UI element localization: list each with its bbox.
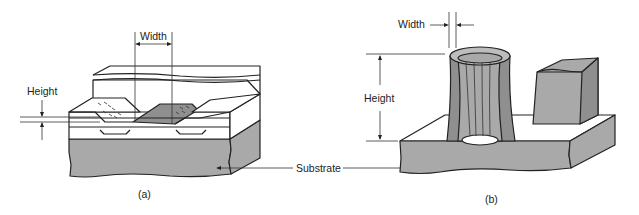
substrate-b-front xyxy=(400,141,571,174)
arrow-down-icon xyxy=(378,135,382,140)
caption-a: (a) xyxy=(138,188,151,200)
trench-left xyxy=(100,130,130,134)
arrow-left-icon xyxy=(135,42,140,46)
caption-b: (b) xyxy=(485,193,498,205)
raised-left-region xyxy=(69,98,140,112)
width-label-b: Width xyxy=(398,18,425,30)
arrow-right-icon xyxy=(444,23,449,27)
panel-b-diagram: Width Height (b) xyxy=(364,12,615,205)
arrow-up-icon xyxy=(40,122,44,127)
sidewall-top-inner xyxy=(458,53,502,63)
arrow-left-icon xyxy=(456,23,461,27)
width-label-a: Width xyxy=(140,30,167,42)
substrate-label: Substrate xyxy=(296,162,341,174)
panel-a-diagram: Width Height (a) xyxy=(20,30,260,200)
arrow-down-icon xyxy=(40,112,44,117)
trench-right xyxy=(176,130,206,134)
figure-canvas: Width Height (a) Substrate xyxy=(0,0,639,215)
sidewall-inner-face xyxy=(458,58,502,141)
arrow-right-icon xyxy=(167,42,172,46)
substrate-a-front xyxy=(69,139,231,177)
sidewall-base-opening xyxy=(462,135,498,145)
arrow-up-icon xyxy=(378,55,382,60)
height-label-a: Height xyxy=(27,85,57,97)
height-label-b: Height xyxy=(364,92,394,104)
